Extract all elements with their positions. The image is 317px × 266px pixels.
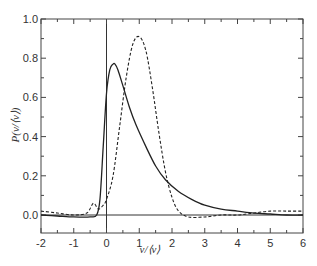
y-tick-label: 0.0 [23, 209, 38, 221]
x-tick-label: 6 [300, 237, 306, 249]
x-tick-label: -2 [36, 237, 46, 249]
y-tick-label: 0.4 [23, 131, 38, 143]
y-tick-label: 1.0 [23, 13, 38, 25]
x-tick-label: 0 [103, 237, 109, 249]
x-tick-labels: -2-10123456 [36, 237, 306, 249]
solid-series-line [41, 63, 303, 217]
y-tick-label: 0.6 [23, 91, 38, 103]
reference-lines [41, 19, 303, 233]
x-tick-label: 2 [169, 237, 175, 249]
x-tick-label: 4 [234, 237, 240, 249]
x-axis-label: v/⟨v⟩ [140, 243, 162, 255]
y-tick-label: 0.8 [23, 52, 38, 64]
x-tick-label: -1 [69, 237, 79, 249]
x-tick-label: 3 [202, 237, 208, 249]
data-series [41, 36, 303, 217]
y-tick-label: 0.2 [23, 170, 38, 182]
x-tick-label: 5 [267, 237, 273, 249]
y-tick-labels: 0.00.20.40.60.81.0 [23, 13, 38, 221]
dashed-series-line [41, 36, 303, 217]
axis-ticks [41, 19, 303, 233]
chart: -2-10123456 0.00.20.40.60.81.0 v/⟨v⟩ P(v… [0, 0, 317, 266]
plot-frame [41, 19, 303, 233]
y-axis-label: P(v/⟨v⟩) [9, 107, 22, 143]
